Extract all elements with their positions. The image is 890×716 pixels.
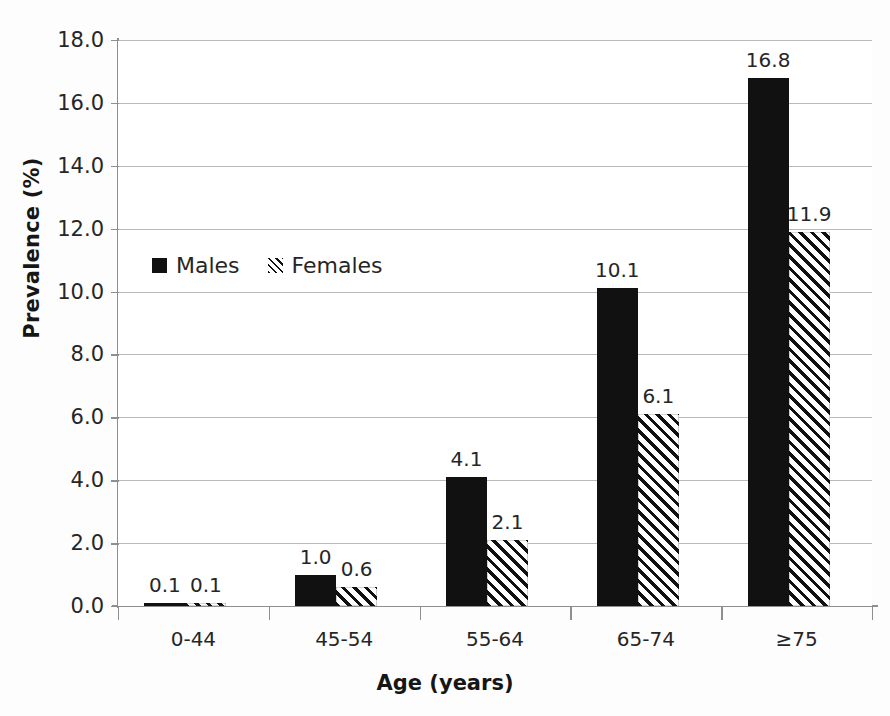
x-axis-tick-label: ≥75 — [721, 627, 873, 651]
bar-males — [144, 603, 185, 606]
bar-females — [487, 540, 528, 606]
bar-value-label: 11.9 — [774, 202, 844, 226]
legend-label-males: Males — [176, 253, 240, 278]
x-axis-tick — [269, 606, 270, 620]
bar-chart: Prevalence (%) 0.02.04.06.08.010.012.014… — [0, 0, 890, 716]
y-axis-tick-label: 14.0 — [28, 154, 104, 178]
x-axis-tick — [118, 606, 119, 620]
legend-entry-males: Males — [152, 253, 240, 278]
x-axis-tick — [872, 606, 873, 620]
x-axis-tick-label: 55-64 — [419, 627, 571, 651]
bar-males — [446, 477, 487, 606]
bar-males — [748, 78, 789, 606]
bar-value-label: 4.1 — [432, 447, 502, 471]
y-axis-tick — [111, 229, 119, 230]
bar-females — [185, 603, 226, 606]
bar-value-label: 0.6 — [322, 557, 392, 581]
bar-value-label: 10.1 — [582, 258, 652, 282]
y-axis-tick — [111, 292, 119, 293]
y-axis-tick — [111, 166, 119, 167]
y-axis-title: Prevalence (%) — [20, 148, 44, 348]
x-axis-tick — [420, 606, 421, 620]
legend-entry-females: Females — [268, 253, 383, 278]
bar-value-label: 2.1 — [473, 510, 543, 534]
y-axis-tick-label: 6.0 — [28, 405, 104, 429]
bar-value-label: 6.1 — [623, 384, 693, 408]
x-axis-tick-label: 45-54 — [268, 627, 420, 651]
bar-females — [638, 414, 679, 606]
y-axis-tick — [111, 417, 119, 418]
x-axis-tick-label: 0-44 — [117, 627, 269, 651]
y-axis-tick — [111, 40, 119, 41]
y-axis-tick-label: 8.0 — [28, 342, 104, 366]
bar-males — [597, 288, 638, 606]
x-axis-tick-label: 65-74 — [570, 627, 722, 651]
x-axis-title: Age (years) — [0, 671, 890, 695]
hatched-square-marker — [268, 258, 283, 273]
bar-value-label: 0.1 — [171, 573, 241, 597]
y-axis-tick — [111, 354, 119, 355]
y-axis-tick-label: 2.0 — [28, 531, 104, 555]
y-axis-tick-label: 16.0 — [28, 91, 104, 115]
filled-square-marker — [152, 258, 167, 273]
gridline — [118, 40, 872, 41]
bar-females — [789, 232, 830, 606]
y-axis-tick — [111, 480, 119, 481]
x-axis-tick — [570, 606, 571, 620]
y-axis-tick-label: 18.0 — [28, 28, 104, 52]
y-axis-tick-label: 4.0 — [28, 468, 104, 492]
bar-females — [336, 587, 377, 606]
chart-legend: Males Females — [152, 253, 383, 278]
x-axis-tick — [721, 606, 722, 620]
y-axis-tick-label: 10.0 — [28, 280, 104, 304]
y-axis-tick-label: 12.0 — [28, 217, 104, 241]
y-axis-tick — [111, 543, 119, 544]
y-axis-tick — [111, 103, 119, 104]
bar-value-label: 16.8 — [733, 48, 803, 72]
y-axis-tick-label: 0.0 — [28, 594, 104, 618]
legend-label-females: Females — [292, 253, 383, 278]
